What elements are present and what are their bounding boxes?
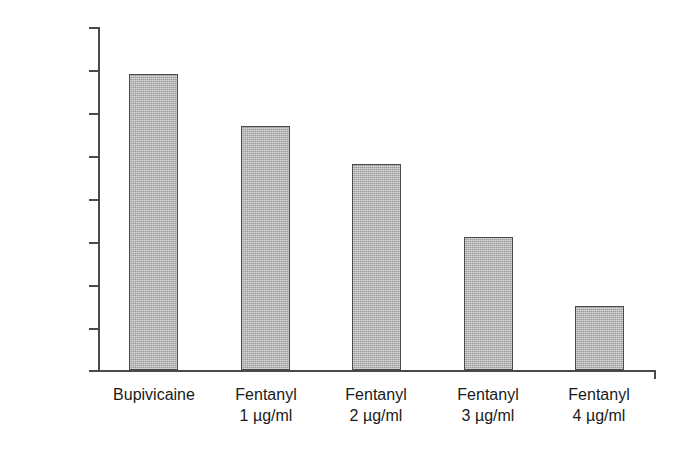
category-label: Fentanyl 2 µg/ml: [318, 384, 434, 426]
category-label: Fentanyl 1 µg/ml: [208, 384, 324, 426]
bar: [129, 74, 178, 370]
category-label: Fentanyl 3 µg/ml: [430, 384, 546, 426]
bar: [575, 306, 624, 370]
category-label: Bupivicaine: [96, 384, 212, 405]
category-label-line1: Bupivicaine: [113, 386, 195, 403]
category-label-line1: Fentanyl: [235, 386, 296, 403]
bar: [352, 164, 401, 370]
category-label-line1: Fentanyl: [568, 386, 629, 403]
bar: [464, 237, 513, 370]
category-label: Fentanyl 4 µg/ml: [541, 384, 657, 426]
category-label-line2: 4 µg/ml: [541, 405, 657, 426]
category-label-line1: Fentanyl: [345, 386, 406, 403]
category-label-line2: 3 µg/ml: [430, 405, 546, 426]
bar: [241, 126, 290, 370]
category-label-line2: 1 µg/ml: [208, 405, 324, 426]
category-label-line1: Fentanyl: [457, 386, 518, 403]
bar-chart: 0.08 0.07 0.06 0.05 0.04 0.03 0.02 0.01 …: [0, 0, 681, 457]
category-label-line2: 2 µg/ml: [318, 405, 434, 426]
